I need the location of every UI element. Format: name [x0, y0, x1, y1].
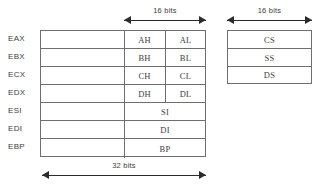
dimension-16-bits-segment-label: 16 bits	[227, 6, 312, 16]
arrow-left-icon	[42, 171, 49, 179]
dimension-line	[42, 175, 206, 176]
cell-ch: CH	[124, 67, 165, 84]
table-row-esi: SI	[41, 103, 205, 121]
cell-cl: CL	[165, 67, 206, 84]
table-row-ss: SS	[228, 49, 311, 67]
cell-al: AL	[165, 31, 206, 48]
register-label-edi: EDI	[8, 120, 38, 138]
cell-ah: AH	[124, 31, 165, 48]
arrow-right-icon	[305, 16, 312, 24]
table-row-edx: DH DL	[41, 85, 205, 103]
register-label-eax: EAX	[8, 30, 38, 48]
dimension-line	[227, 20, 312, 21]
register-label-esi: ESI	[8, 102, 38, 120]
register-label-ecx: ECX	[8, 66, 38, 84]
dimension-16-bits-general: 16 bits	[124, 6, 206, 28]
table-row-edi: DI	[41, 121, 205, 139]
cell-bh: BH	[124, 49, 165, 66]
arrow-left-icon	[227, 16, 234, 24]
table-row-ds: DS	[228, 67, 311, 83]
table-row-ecx: CH CL	[41, 67, 205, 85]
cell-si: SI	[124, 103, 206, 120]
table-row-eax: AH AL	[41, 31, 205, 49]
dimension-16-bits-segment: 16 bits	[227, 6, 312, 28]
table-row-ebp: BP	[41, 139, 205, 158]
cell-bl: BL	[165, 49, 206, 66]
dimension-32-bits: 32 bits	[42, 161, 206, 183]
register-label-edx: EDX	[8, 84, 38, 102]
segment-register-table: CS SS DS	[227, 30, 312, 84]
table-row-cs: CS	[228, 31, 311, 49]
arrow-right-icon	[199, 16, 206, 24]
cell-dh: DH	[124, 85, 165, 102]
register-label-ebx: EBX	[8, 48, 38, 66]
register-label-ebp: EBP	[8, 138, 38, 156]
register-diagram: EAX EBX ECX EDX ESI EDI EBP 16 bits 16 b…	[0, 0, 327, 190]
dimension-16-bits-general-label: 16 bits	[124, 6, 206, 16]
cell-dl: DL	[165, 85, 206, 102]
dimension-line	[124, 20, 206, 21]
dimension-32-bits-label: 32 bits	[42, 161, 206, 171]
cell-di: DI	[124, 121, 206, 138]
cell-bp: BP	[124, 139, 206, 158]
arrow-right-icon	[199, 171, 206, 179]
general-register-table: AH AL BH BL CH CL DH DL SI DI	[40, 30, 206, 157]
table-row-ebx: BH BL	[41, 49, 205, 67]
arrow-left-icon	[124, 16, 131, 24]
